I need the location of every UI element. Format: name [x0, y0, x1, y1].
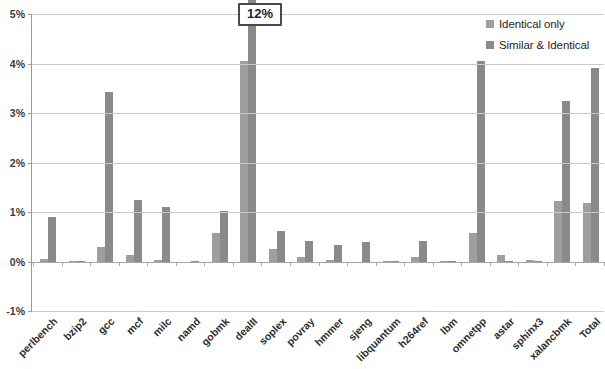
bar: [240, 61, 248, 261]
y-axis-tick-label: 1%: [0, 206, 25, 218]
chart-legend: Identical only Similar & Identical: [486, 13, 605, 55]
legend-swatch-icon: [486, 20, 494, 28]
plot-area: 5%4%3%2%1%0%-1%: [31, 14, 604, 311]
legend-item-identical-only: Identical only: [486, 13, 605, 34]
x-axis-labels: perlbenchbzip2gccmcfmilcnamdgobmkdealIIs…: [31, 313, 603, 369]
bar: [248, 0, 256, 262]
y-axis-tick-mark: [28, 163, 32, 164]
bar: [162, 207, 170, 261]
gridline: [32, 113, 604, 114]
bar: [134, 200, 142, 262]
y-axis-tick-label: 2%: [0, 157, 25, 169]
bar: [48, 217, 56, 262]
y-axis-tick-label: -1%: [0, 305, 25, 317]
gridline: [32, 163, 604, 164]
bar: [212, 233, 220, 262]
bar-chart: 5%4%3%2%1%0%-1% 12% Identical only Simil…: [0, 0, 605, 369]
bar: [562, 101, 570, 262]
y-axis-tick-mark: [28, 212, 32, 213]
y-axis-tick-mark: [28, 113, 32, 114]
data-label-callout: 12%: [238, 3, 282, 26]
legend-item-similar-and-identical: Similar & Identical: [486, 34, 605, 55]
legend-label: Similar & Identical: [499, 39, 589, 51]
bar: [269, 249, 277, 261]
bar: [105, 92, 113, 261]
y-axis-tick-mark: [28, 262, 32, 263]
y-axis-tick-mark: [28, 14, 32, 15]
bar: [97, 247, 105, 262]
y-axis-tick-label: 0%: [0, 256, 25, 268]
gridline: [32, 262, 604, 263]
bar: [591, 68, 599, 261]
gridline: [32, 212, 604, 213]
y-axis-tick-mark: [28, 64, 32, 65]
y-axis-tick-label: 4%: [0, 58, 25, 70]
bar: [277, 231, 285, 262]
bar: [334, 245, 342, 262]
y-axis-tick-label: 5%: [0, 8, 25, 20]
bar: [305, 241, 313, 262]
legend-label: Identical only: [499, 18, 565, 30]
y-axis-tick-mark: [28, 311, 32, 312]
gridline: [32, 64, 604, 65]
bar: [220, 211, 228, 262]
bar: [362, 242, 370, 262]
y-axis-tick-label: 3%: [0, 107, 25, 119]
bar: [554, 201, 562, 261]
bar: [469, 233, 477, 261]
legend-swatch-icon: [486, 41, 494, 49]
bar: [419, 241, 427, 262]
bar: [477, 61, 485, 261]
